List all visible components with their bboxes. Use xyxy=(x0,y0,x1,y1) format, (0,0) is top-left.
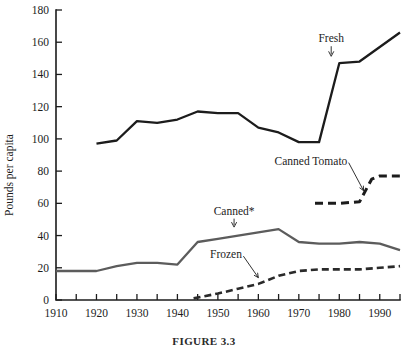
x-tick-label: 1920 xyxy=(85,307,108,319)
y-axis-ticks: 020406080100120140160180 xyxy=(32,4,62,306)
x-tick-label: 1970 xyxy=(287,307,310,319)
series-annotations: FreshCanned*FrozenCanned Tomato xyxy=(210,32,364,277)
y-tick-label: 0 xyxy=(43,294,49,306)
annotation-label: Fresh xyxy=(318,32,344,44)
x-tick-label: 1990 xyxy=(368,307,391,319)
y-tick-label: 180 xyxy=(32,4,50,16)
annotation-label: Canned Tomato xyxy=(275,155,348,167)
y-tick-label: 160 xyxy=(32,36,50,48)
annotation-label: Canned* xyxy=(214,205,255,217)
y-tick-label: 40 xyxy=(38,230,50,242)
figure-page: 020406080100120140160180 191019201930194… xyxy=(0,0,409,347)
x-tick-label: 1910 xyxy=(45,307,68,319)
x-axis-ticks: 191019201930194019501960197019801990 xyxy=(45,294,401,319)
annotation-label: Frozen xyxy=(210,248,242,260)
annotation-leader xyxy=(243,256,258,278)
figure-caption: FIGURE 3.3 xyxy=(172,335,235,347)
x-tick-label: 1930 xyxy=(125,307,148,319)
series-line-frozen xyxy=(194,266,400,298)
series-line-fresh xyxy=(96,33,400,144)
y-tick-label: 80 xyxy=(38,165,50,177)
y-axis-title: Pounds per capita xyxy=(3,134,16,216)
y-tick-label: 20 xyxy=(38,262,50,274)
x-tick-label: 1980 xyxy=(328,307,351,319)
y-tick-label: 100 xyxy=(32,133,50,145)
x-tick-label: 1940 xyxy=(166,307,189,319)
y-tick-label: 120 xyxy=(32,101,50,113)
x-tick-label: 1960 xyxy=(247,307,270,319)
y-tick-label: 140 xyxy=(32,68,50,80)
x-tick-label: 1950 xyxy=(206,307,229,319)
line-chart: 020406080100120140160180 191019201930194… xyxy=(0,0,409,347)
annotation-leader xyxy=(349,163,364,191)
y-tick-label: 60 xyxy=(38,197,50,209)
